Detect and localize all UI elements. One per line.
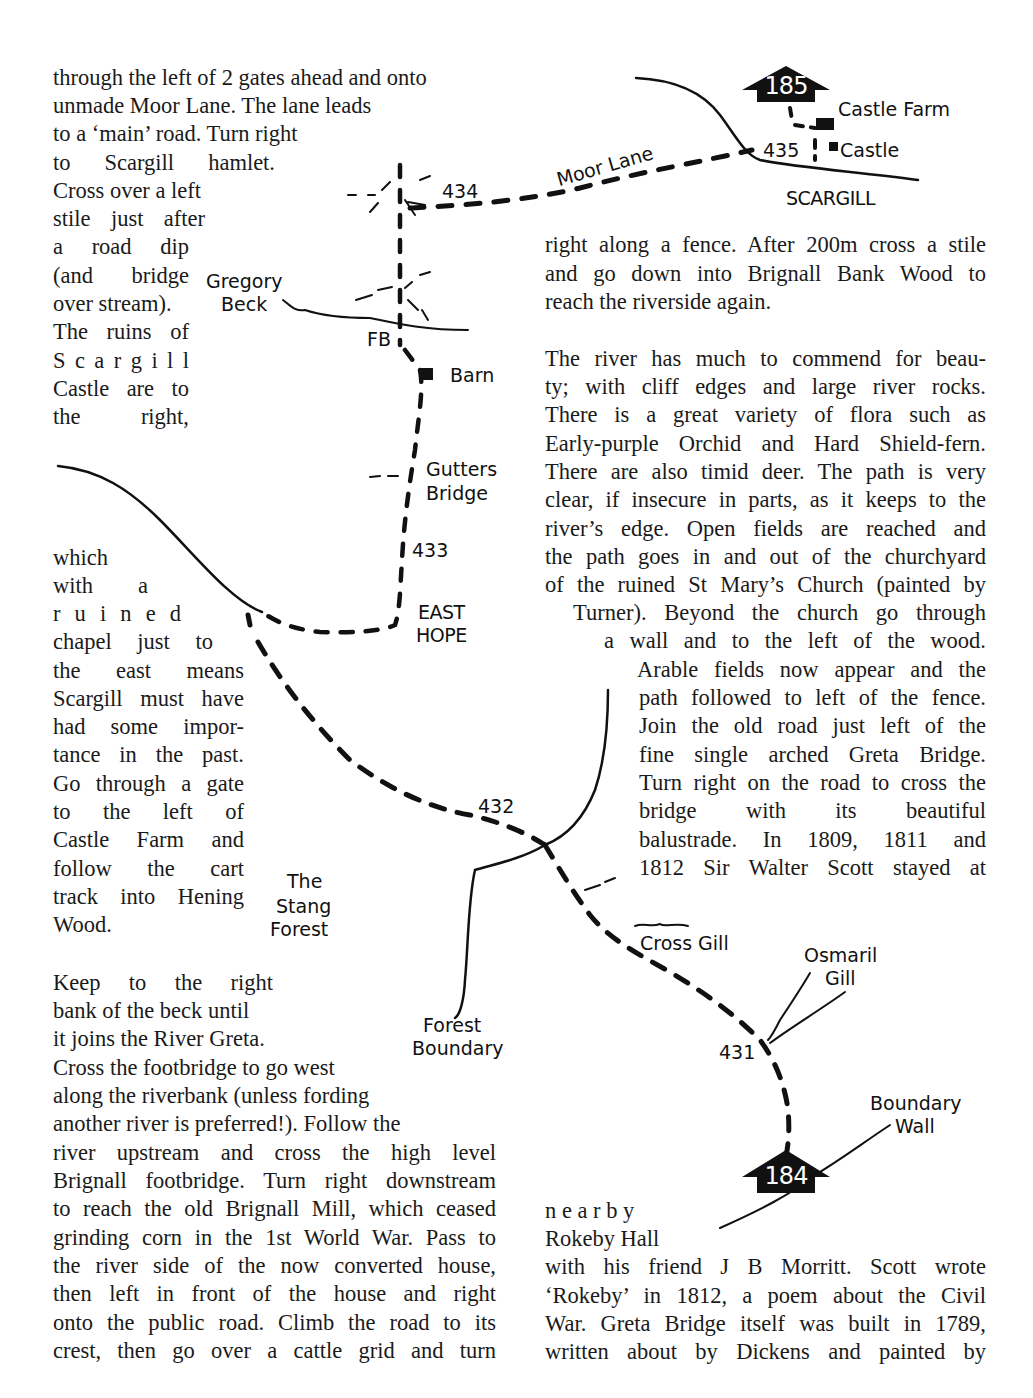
text-line: Cross over a left bbox=[53, 177, 201, 205]
main-route-north bbox=[262, 165, 421, 632]
label-gregory: Gregory bbox=[206, 270, 283, 292]
text-line: river’s edge. Open fields are reached an… bbox=[545, 515, 986, 543]
text-line: Turner). Beyond the church go through bbox=[573, 599, 986, 627]
text-line: 1812 Sir Walter Scott stayed at bbox=[639, 854, 986, 882]
gregory-beck bbox=[283, 300, 468, 330]
label-fb: FB bbox=[367, 328, 391, 350]
text-line: to reach the old Brignall Mill, which ce… bbox=[53, 1195, 496, 1223]
text-line: The river has much to commend for beau- bbox=[545, 345, 986, 373]
text-line: the river side of the now converted hous… bbox=[53, 1252, 496, 1280]
text-line: onto the public road. Climb the road to … bbox=[53, 1309, 496, 1337]
text-line: it joins the River Greta. bbox=[53, 1025, 265, 1053]
junction-434-marks bbox=[348, 176, 430, 320]
text-line: War. Greta Bridge itself was built in 17… bbox=[545, 1310, 986, 1338]
label-barn: Barn bbox=[450, 364, 494, 386]
castle-farm-building bbox=[816, 118, 834, 130]
text-line: ty; with cliff edges and large river roc… bbox=[545, 373, 986, 401]
text-line: through the left of 2 gates ahead and on… bbox=[53, 64, 427, 92]
text-line: stile just after bbox=[53, 205, 205, 233]
text-line: clear, if insecure in parts, as it keeps… bbox=[545, 486, 986, 514]
waypoint-431: 431 bbox=[719, 1041, 755, 1063]
text-line: another river is preferred!). Follow the bbox=[53, 1110, 400, 1138]
text-line: had some impor- bbox=[53, 713, 244, 741]
text-line: which bbox=[53, 544, 108, 572]
text-line: crest, then go over a cattle grid and tu… bbox=[53, 1337, 496, 1365]
label-gill: Gill bbox=[825, 967, 856, 989]
text-line: balustrade. In 1809, 1811 and bbox=[639, 826, 986, 854]
text-line: to Scargill hamlet. bbox=[53, 149, 275, 177]
text-line: r u i n e d bbox=[53, 600, 181, 628]
text-line: a wall and to the left of the wood. bbox=[604, 627, 986, 655]
text-line: along the riverbank (unless fording bbox=[53, 1082, 369, 1110]
arrow-184-label: 184 bbox=[757, 1162, 815, 1190]
text-line: a road dip bbox=[53, 233, 189, 261]
text-line: S c a r g i l l bbox=[53, 347, 189, 375]
text-line: Arable fields now appear and the bbox=[637, 656, 986, 684]
text-line: tance in the past. bbox=[53, 741, 244, 769]
text-line: the path goes in and out of the churchya… bbox=[545, 543, 986, 571]
text-line: with a bbox=[53, 572, 148, 600]
text-line: Early-purple Orchid and Hard Shield-fern… bbox=[545, 430, 986, 458]
side-path bbox=[585, 878, 615, 890]
text-line: Turn right on the road to cross the bbox=[639, 769, 986, 797]
arrow-185-label: 185 bbox=[757, 72, 815, 100]
text-line: fine single arched Greta Bridge. bbox=[639, 741, 986, 769]
text-line: river upstream and cross the high level bbox=[53, 1139, 496, 1167]
label-scargill: SCARGILL bbox=[786, 187, 875, 209]
text-line: There is a great variety of flora such a… bbox=[545, 401, 986, 429]
cross-gill-stream bbox=[635, 924, 688, 926]
label-gutters: Gutters bbox=[426, 458, 497, 480]
text-line: bank of the beck until bbox=[53, 997, 249, 1025]
text-line: the right, bbox=[53, 403, 189, 431]
label-boundary-wall-1: Boundary bbox=[870, 1092, 962, 1114]
text-line: over stream). bbox=[53, 290, 172, 318]
text-line: Scargill must have bbox=[53, 685, 244, 713]
text-line: reach the riverside again. bbox=[545, 288, 771, 316]
text-line: bridge with its beautiful bbox=[639, 797, 986, 825]
text-line: ‘Rokeby’ in 1812, a poem about the Civil bbox=[545, 1282, 986, 1310]
text-line: Wood. bbox=[53, 911, 112, 939]
label-east: EAST bbox=[418, 601, 465, 623]
text-line: Keep to the right bbox=[53, 969, 273, 997]
text-line: follow the cart bbox=[53, 855, 244, 883]
label-stang: Stang bbox=[276, 895, 331, 917]
label-forest: Forest bbox=[270, 918, 328, 940]
label-castle: Castle bbox=[840, 139, 899, 161]
waypoint-435: 435 bbox=[763, 139, 799, 161]
barn-building bbox=[421, 368, 433, 380]
text-line: of the ruined St Mary’s Church (painted … bbox=[545, 571, 986, 599]
text-line: Castle Farm and bbox=[53, 826, 244, 854]
label-osmaril: Osmaril bbox=[804, 944, 877, 966]
text-line: Join the old road just left of the bbox=[639, 712, 986, 740]
text-line: to the left of bbox=[53, 798, 244, 826]
waypoint-433: 433 bbox=[412, 539, 448, 561]
label-cross-gill: Cross Gill bbox=[640, 932, 729, 954]
text-line: grinding corn in the 1st World War. Pass… bbox=[53, 1224, 496, 1252]
label-the: The bbox=[287, 870, 322, 892]
text-line: chapel just to bbox=[53, 628, 213, 656]
text-line: right along a fence. After 200m cross a … bbox=[545, 231, 986, 259]
label-boundary-wall-2: Wall bbox=[895, 1115, 935, 1137]
text-line: Brignall footbridge. Turn right downstre… bbox=[53, 1167, 496, 1195]
text-line: then left in front of the house and righ… bbox=[53, 1280, 496, 1308]
forest-boundary-line bbox=[455, 690, 608, 1018]
text-line: n e a r b y bbox=[545, 1197, 634, 1225]
castle-building bbox=[829, 142, 838, 151]
text-line: to a ‘main’ road. Turn right bbox=[53, 120, 298, 148]
waypoint-432: 432 bbox=[478, 795, 514, 817]
text-line: path followed to left of the fence. bbox=[639, 684, 986, 712]
text-line: and go down into Brignall Bank Wood to bbox=[545, 260, 986, 288]
text-line: Cross the footbridge to go west bbox=[53, 1054, 335, 1082]
label-castle-farm: Castle Farm bbox=[838, 98, 950, 120]
text-line: (and bridge bbox=[53, 262, 189, 290]
text-line: the east means bbox=[53, 657, 244, 685]
text-line: track into Hening bbox=[53, 883, 244, 911]
label-forest-boundary-1: Forest bbox=[423, 1014, 481, 1036]
text-line: The ruins of bbox=[53, 318, 189, 346]
label-beck: Beck bbox=[221, 293, 267, 315]
waypoint-434: 434 bbox=[442, 180, 478, 202]
gutters-side-path bbox=[370, 476, 398, 477]
text-line: written about by Dickens and painted by bbox=[545, 1338, 986, 1366]
text-line: with his friend J B Morritt. Scott wrote bbox=[545, 1253, 986, 1281]
label-forest-boundary-2: Boundary bbox=[412, 1037, 504, 1059]
